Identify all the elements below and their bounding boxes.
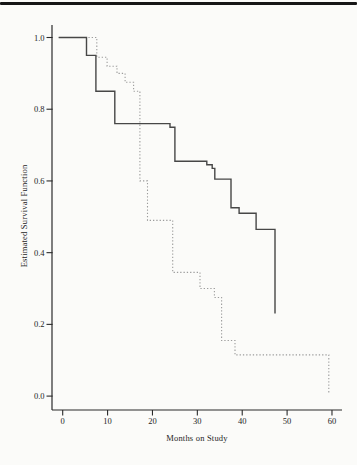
- y-tick-label: 0.2: [34, 319, 45, 329]
- y-tick-label: 0.0: [34, 391, 45, 401]
- survival-plot: 1.00.80.60.40.20.00102030405060 Months o…: [0, 0, 357, 465]
- x-tick-label: 40: [238, 416, 247, 426]
- x-tick-label: 30: [193, 416, 202, 426]
- x-tick-label: 50: [283, 416, 292, 426]
- y-tick-label: 0.6: [34, 176, 45, 186]
- scanned-page: 1.00.80.60.40.20.00102030405060 Months o…: [0, 0, 357, 465]
- curves-layer: [59, 38, 329, 395]
- y-axis-title: Estimated Survival Function: [19, 164, 29, 267]
- solid-survival-curve: [59, 38, 275, 314]
- x-tick-label: 10: [103, 416, 112, 426]
- y-tick-label: 0.8: [34, 104, 45, 114]
- x-tick-label: 0: [61, 416, 65, 426]
- x-axis-title: Months on Study: [166, 433, 228, 443]
- y-tick-label: 0.4: [34, 248, 45, 258]
- x-tick-label: 20: [148, 416, 157, 426]
- y-tick-label: 1.0: [34, 33, 45, 43]
- x-tick-label: 60: [328, 416, 337, 426]
- survival-curve-figure: 1.00.80.60.40.20.00102030405060 Months o…: [0, 0, 357, 465]
- axes-layer: 1.00.80.60.40.20.00102030405060: [34, 25, 342, 426]
